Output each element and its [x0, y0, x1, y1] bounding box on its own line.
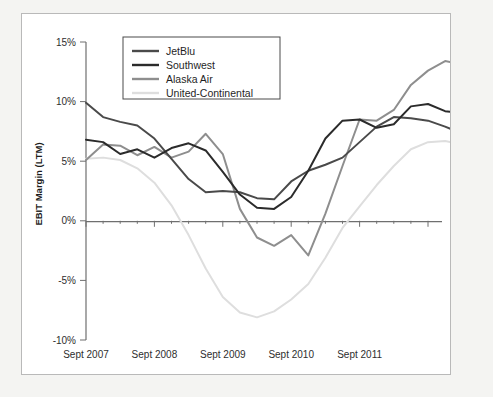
y-tick-label: 5%: [62, 156, 77, 167]
x-tick-label: Sept 2007: [63, 349, 109, 360]
x-tick-label: Sept 2010: [268, 349, 314, 360]
y-tick-label: -10%: [53, 335, 76, 346]
legend-label-alaska-air: Alaska Air: [166, 73, 213, 85]
chart-legend[interactable]: JetBluSouthwestAlaska AirUnited-Continen…: [123, 37, 280, 99]
y-axis-ticks: 15%10%5%0%-5%-10%: [53, 37, 86, 346]
y-tick-label: 15%: [56, 37, 76, 48]
x-axis: Sept 2007Sept 2008Sept 2009Sept 2010Sept…: [63, 221, 442, 360]
y-tick-label: 10%: [56, 96, 76, 107]
legend-label-southwest: Southwest: [166, 59, 215, 71]
series-line-united-continental: [86, 141, 450, 317]
y-axis: 15%10%5%0%-5%-10%: [53, 37, 86, 346]
legend-label-united-continental: United-Continental: [166, 87, 253, 99]
legend-label-jetblu: JetBlu: [166, 45, 195, 57]
series-lines: [86, 61, 450, 317]
chart-frame: 15%10%5%0%-5%-10% Sept 2007Sept 2008Sept…: [21, 13, 451, 375]
y-axis-title: EBIT Margin (LTM): [33, 142, 44, 225]
screenshot-root: 15%10%5%0%-5%-10% Sept 2007Sept 2008Sept…: [0, 0, 493, 397]
x-tick-label: Sept 2009: [200, 349, 246, 360]
y-tick-label: -5%: [58, 275, 76, 286]
y-tick-label: 0%: [62, 215, 77, 226]
x-tick-label: Sept 2011: [337, 349, 382, 360]
ebit-margin-line-chart: 15%10%5%0%-5%-10% Sept 2007Sept 2008Sept…: [22, 14, 450, 374]
x-axis-ticks: [86, 221, 428, 227]
x-axis-tick-labels: Sept 2007Sept 2008Sept 2009Sept 2010Sept…: [63, 349, 382, 360]
x-tick-label: Sept 2008: [132, 349, 178, 360]
series-line-southwest: [86, 104, 450, 209]
